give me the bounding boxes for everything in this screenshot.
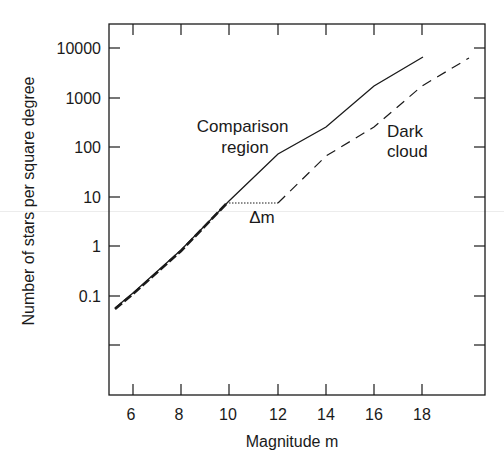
x-tick-labels: 6 8 10 12 14 16 18 (127, 406, 431, 423)
star-count-chart: 10000 1000 100 10 1 0.1 6 8 10 12 14 16 … (0, 0, 504, 469)
y-tick-label: 10 (83, 189, 101, 206)
dark-cloud-curve-lower (115, 202, 228, 309)
x-tick-label: 6 (127, 406, 136, 423)
y-axis-ticks-right (474, 48, 485, 345)
x-tick-label: 14 (317, 406, 335, 423)
y-tick-label: 0.1 (79, 288, 101, 305)
y-tick-label: 10000 (57, 40, 102, 57)
x-tick-label: 16 (365, 406, 383, 423)
comparison-region-label: Comparison region (197, 117, 293, 157)
y-axis-ticks-left (109, 48, 120, 345)
x-axis-ticks-top (133, 24, 422, 35)
x-tick-label: 8 (175, 406, 184, 423)
x-tick-label: 18 (413, 406, 431, 423)
y-tick-label: 1 (92, 238, 101, 255)
x-tick-label: 10 (219, 406, 237, 423)
x-axis-ticks-bottom (133, 384, 422, 395)
delta-m-label: Δm (249, 208, 275, 227)
plot-frame (109, 24, 485, 395)
y-axis-title: Number of stars per square degree (20, 76, 37, 325)
dark-cloud-curve-upper (278, 58, 469, 203)
x-axis-title: Magnitude m (246, 433, 339, 450)
y-tick-label: 1000 (65, 90, 101, 107)
x-tick-label: 12 (269, 406, 287, 423)
dark-cloud-label: Dark cloud (387, 122, 428, 161)
y-tick-labels: 10000 1000 100 10 1 0.1 (57, 40, 102, 305)
y-tick-label: 100 (74, 139, 101, 156)
